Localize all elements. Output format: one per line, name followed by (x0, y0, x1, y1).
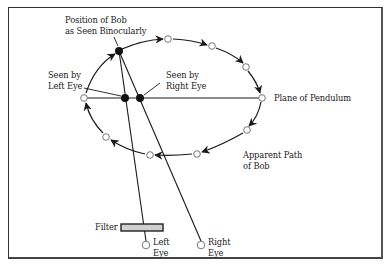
label-right-eye: Right Eye (208, 237, 230, 259)
label-left-eye: Left Eye (153, 237, 169, 259)
left-eye-circle (142, 241, 150, 249)
label-apparent-path: Apparent Path of Bob (243, 150, 302, 172)
right-seen-pointer (144, 83, 160, 95)
label-plane-of-pendulum: Plane of Pendulum (274, 93, 351, 104)
pendulum-diagram (0, 0, 388, 268)
path-circles (81, 36, 266, 159)
apparent-path-arrows (86, 39, 261, 155)
label-position-binocular: Position of Bob as Seen Binocularly (65, 15, 146, 37)
left-seen-dot (121, 94, 129, 102)
binocular-bob-dot (115, 47, 123, 55)
left-eye-sight-line (119, 51, 146, 241)
left-seen-pointer (84, 88, 121, 96)
label-seen-by-left: Seen by Left Eye (48, 70, 82, 92)
label-filter: Filter (95, 222, 118, 233)
right-seen-dot (136, 94, 144, 102)
label-seen-by-right: Seen by Right Eye (166, 70, 206, 92)
binocular-pointer (114, 37, 118, 46)
right-eye-circle (197, 241, 205, 249)
filter-rect (121, 224, 163, 231)
